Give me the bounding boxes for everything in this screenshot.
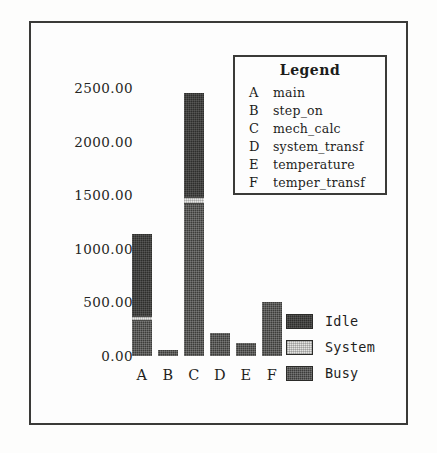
x-axis-tick-label-a: A — [132, 367, 152, 383]
x-axis-tick-label-b: B — [158, 367, 178, 383]
series-key-swatch-busy — [286, 366, 313, 381]
x-axis-tick-label-e: E — [236, 367, 256, 383]
legend-entry-b: Bstep_on — [235, 103, 385, 118]
legend-entry-name: step_on — [273, 103, 323, 118]
legend-entry-key: F — [249, 175, 273, 190]
series-key-label: System — [325, 339, 375, 355]
series-key-label: Busy — [325, 365, 358, 381]
series-key-label: Idle — [325, 313, 358, 329]
legend-entry-d: Dsystem_transf — [235, 139, 385, 154]
legend-entry-name: temper_transf — [273, 175, 365, 190]
legend-entry-name: temperature — [273, 157, 355, 172]
legend-entry-key: D — [249, 139, 273, 154]
x-axis-tick-label-c: C — [184, 367, 204, 383]
series-key: IdleSystemBusy — [286, 313, 406, 391]
legend-entry-c: Cmech_calc — [235, 121, 385, 136]
legend-entry-name: mech_calc — [273, 121, 341, 136]
legend-entry-name: system_transf — [273, 139, 364, 154]
legend-entry-name: main — [273, 85, 305, 100]
legend-title: Legend — [235, 62, 385, 78]
series-key-swatch-system — [286, 340, 313, 355]
legend-entry-e: Etemperature — [235, 157, 385, 172]
series-key-row-system: System — [286, 339, 406, 355]
series-key-swatch-idle — [286, 314, 313, 329]
legend-box: Legend AmainBstep_onCmech_calcDsystem_tr… — [233, 55, 387, 195]
series-key-row-busy: Busy — [286, 365, 406, 381]
legend-entry-a: Amain — [235, 85, 385, 100]
legend-entry-f: Ftemper_transf — [235, 175, 385, 190]
legend-entry-key: B — [249, 103, 273, 118]
legend-entry-list: AmainBstep_onCmech_calcDsystem_transfEte… — [235, 85, 385, 190]
legend-entry-key: C — [249, 121, 273, 136]
series-key-row-idle: Idle — [286, 313, 406, 329]
x-axis-tick-label-d: D — [210, 367, 230, 383]
x-axis-tick-label-f: F — [262, 367, 282, 383]
legend-entry-key: A — [249, 85, 273, 100]
chart-frame: 0.00500.001000.001500.002000.002500.00 A… — [29, 21, 408, 425]
scanned-page-background: 0.00500.001000.001500.002000.002500.00 A… — [0, 0, 437, 453]
legend-entry-key: E — [249, 157, 273, 172]
